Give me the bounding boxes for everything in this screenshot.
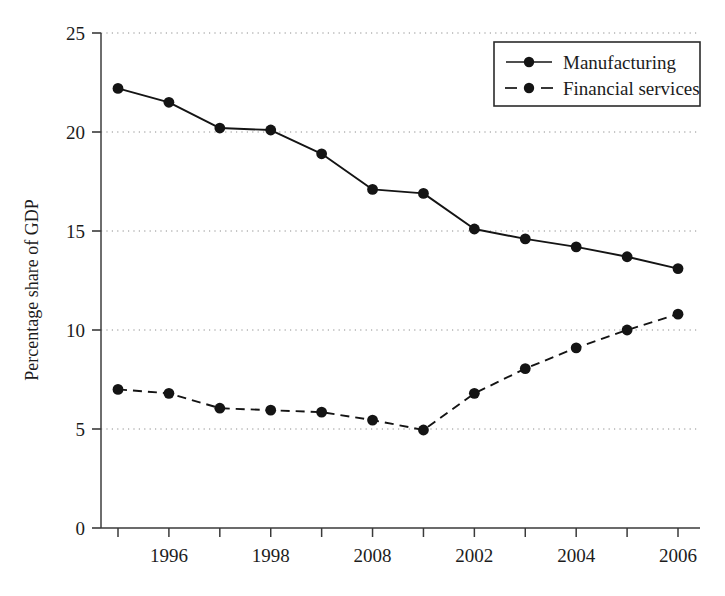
series-manufacturing <box>113 83 684 274</box>
data-point <box>113 83 124 94</box>
x-tick-label-2006: 2006 <box>659 545 697 566</box>
data-point <box>673 263 684 274</box>
chart-figure: 0510152025 199619982008200220042006 Perc… <box>0 0 725 596</box>
line-chart-canvas: 0510152025 199619982008200220042006 Perc… <box>0 0 725 596</box>
data-point <box>316 148 327 159</box>
x-tick-label-1998: 1998 <box>252 545 290 566</box>
legend-label-financial-services: Financial services <box>563 78 700 99</box>
series-line-0 <box>118 88 678 268</box>
data-point <box>469 224 480 235</box>
data-point <box>622 325 633 336</box>
y-tick-label-15: 15 <box>66 221 85 242</box>
y-axis-ticks: 0510152025 <box>66 23 101 539</box>
data-point <box>367 415 378 426</box>
data-point <box>113 384 124 395</box>
legend-marker-dot-icon <box>524 57 534 67</box>
x-tick-label-2002: 2002 <box>455 545 493 566</box>
y-tick-label-0: 0 <box>76 518 86 539</box>
data-point <box>571 342 582 353</box>
data-point <box>622 251 633 262</box>
data-point <box>673 309 684 320</box>
x-tick-label-1996: 1996 <box>150 545 188 566</box>
data-point <box>164 388 175 399</box>
data-point <box>214 123 225 134</box>
data-point <box>469 388 480 399</box>
y-tick-label-25: 25 <box>66 23 85 44</box>
x-tick-label-2004: 2004 <box>557 545 596 566</box>
data-point <box>367 184 378 195</box>
data-point <box>520 363 531 374</box>
legend-label-manufacturing: Manufacturing <box>563 52 676 73</box>
y-tick-label-10: 10 <box>66 320 85 341</box>
axis-lines <box>101 33 700 528</box>
data-point <box>316 407 327 418</box>
series-line-1 <box>118 314 678 430</box>
y-axis-title: Percentage share of GDP <box>22 199 42 380</box>
data-series-layer <box>113 83 684 435</box>
data-point <box>214 403 225 414</box>
data-point <box>418 188 429 199</box>
data-point <box>571 241 582 252</box>
series-financial-services <box>113 309 684 436</box>
data-point <box>164 97 175 108</box>
data-point <box>265 125 276 136</box>
y-tick-label-5: 5 <box>76 419 86 440</box>
y-tick-label-20: 20 <box>66 122 85 143</box>
chart-legend: Manufacturing Financial services <box>494 42 700 106</box>
data-point <box>418 425 429 436</box>
data-point <box>520 234 531 245</box>
data-point <box>265 405 276 416</box>
x-tick-label-2008: 2008 <box>354 545 392 566</box>
x-axis-ticks: 199619982008200220042006 <box>118 528 697 566</box>
legend-marker-dot-icon-2 <box>524 83 534 93</box>
